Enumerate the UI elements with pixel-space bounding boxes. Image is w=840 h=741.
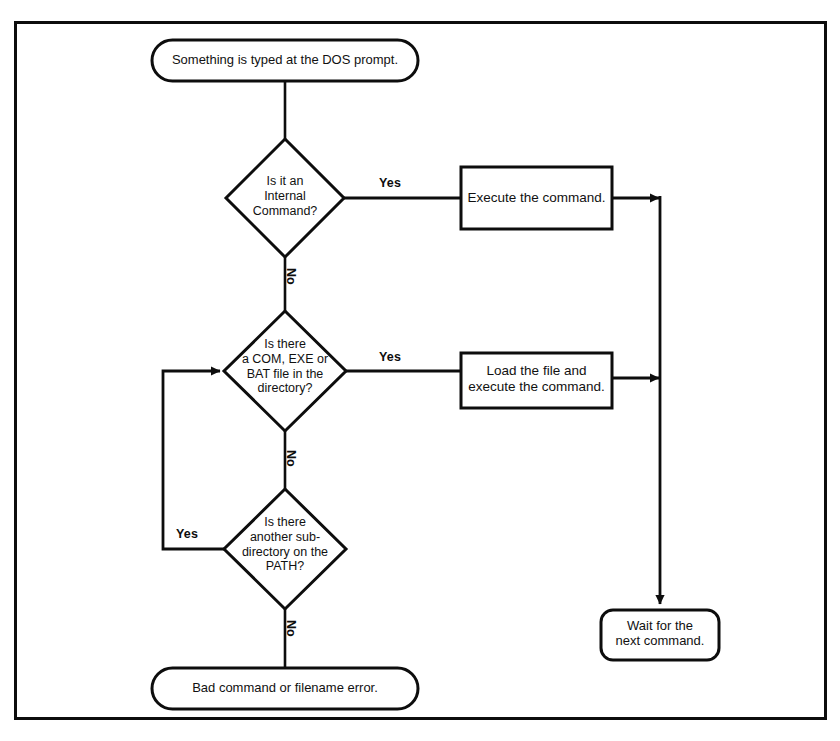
- wait-terminator-shape: [601, 610, 719, 660]
- edge-label-path-yes: Yes: [176, 527, 198, 541]
- edge-label-internal-yes: Yes: [379, 176, 401, 190]
- start-terminator-shape: [152, 40, 418, 81]
- process-execute-shape: [461, 167, 612, 229]
- edge-label-file-no: No: [284, 450, 298, 467]
- edge-label-file-yes: Yes: [379, 350, 401, 364]
- flowchart-graphics: [0, 0, 840, 741]
- edge-label-path-no: No: [284, 620, 298, 637]
- process-load-shape: [461, 353, 612, 408]
- error-terminator-shape: [152, 668, 418, 709]
- edge-label-internal-no: No: [284, 268, 298, 285]
- flowchart-canvas: Something is typed at the DOS prompt. Is…: [0, 0, 840, 741]
